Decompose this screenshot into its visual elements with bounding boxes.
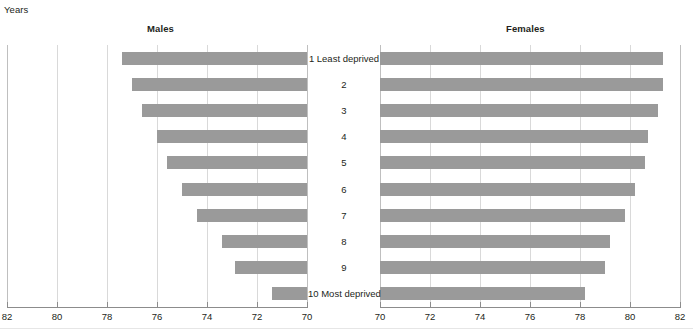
tick-mark-70: [307, 302, 308, 307]
tick-mark-74: [480, 302, 481, 307]
bar-males-9: [235, 261, 308, 274]
tick-label-78: 78: [575, 311, 586, 322]
bar-males-7: [197, 209, 307, 222]
tick-label-72: 72: [425, 311, 436, 322]
tick-label-70: 70: [375, 311, 386, 322]
category-label-6: 6: [308, 184, 380, 195]
bar-males-1: [122, 52, 307, 65]
tick-label-82: 82: [675, 311, 686, 322]
bar-males-5: [167, 156, 307, 169]
category-label-2: 2: [308, 79, 380, 90]
tick-mark-78: [580, 302, 581, 307]
bar-females-9: [380, 261, 605, 274]
category-label-5: 5: [308, 157, 380, 168]
panel-title-males: Males: [147, 23, 174, 34]
category-label-1: 1 Least deprived: [308, 53, 380, 64]
tick-label-76: 76: [152, 311, 163, 322]
bar-females-7: [380, 209, 625, 222]
tick-label-74: 74: [475, 311, 486, 322]
tick-label-80: 80: [52, 311, 63, 322]
bar-females-3: [380, 104, 658, 117]
bar-females-6: [380, 183, 635, 196]
tick-mark-78: [107, 302, 108, 307]
category-label-8: 8: [308, 236, 380, 247]
tick-label-82: 82: [2, 311, 13, 322]
tick-mark-72: [257, 302, 258, 307]
tick-label-70: 70: [302, 311, 313, 322]
bottom-divider: [0, 328, 693, 329]
tick-mark-76: [530, 302, 531, 307]
tick-mark-70: [380, 302, 381, 307]
x-axis-females: [380, 307, 681, 308]
bar-females-8: [380, 235, 610, 248]
chart-container: Years Males Females 82807876747270 70727…: [0, 0, 693, 330]
tick-mark-76: [157, 302, 158, 307]
bar-males-2: [132, 78, 307, 91]
tick-mark-82: [7, 302, 8, 307]
bar-females-5: [380, 156, 645, 169]
bar-males-10: [272, 287, 307, 300]
tick-mark-82: [680, 302, 681, 307]
tick-label-72: 72: [252, 311, 263, 322]
bar-females-1: [380, 52, 663, 65]
category-label-4: 4: [308, 131, 380, 142]
tick-mark-72: [430, 302, 431, 307]
panel-title-females: Females: [506, 23, 545, 34]
gridline-82: [680, 45, 681, 307]
tick-mark-80: [57, 302, 58, 307]
bar-females-4: [380, 130, 648, 143]
tick-label-74: 74: [202, 311, 213, 322]
gridline-80: [57, 45, 58, 307]
x-axis-males: [7, 307, 308, 308]
tick-label-80: 80: [625, 311, 636, 322]
bar-males-6: [182, 183, 307, 196]
bar-males-3: [142, 104, 307, 117]
gridline-82: [7, 45, 8, 307]
bar-males-4: [157, 130, 307, 143]
axis-unit-label: Years: [4, 4, 28, 15]
category-label-9: 9: [308, 262, 380, 273]
bar-females-10: [380, 287, 585, 300]
tick-mark-74: [207, 302, 208, 307]
tick-label-78: 78: [102, 311, 113, 322]
tick-mark-80: [630, 302, 631, 307]
category-label-3: 3: [308, 105, 380, 116]
gridline-78: [107, 45, 108, 307]
tick-label-76: 76: [525, 311, 536, 322]
category-label-7: 7: [308, 210, 380, 221]
category-label-10: 10 Most deprived: [308, 288, 380, 299]
bar-males-8: [222, 235, 307, 248]
bar-females-2: [380, 78, 663, 91]
